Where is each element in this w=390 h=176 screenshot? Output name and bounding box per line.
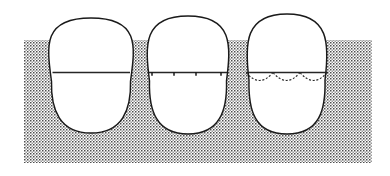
egg-group-3 [246, 14, 328, 134]
egg-plain-outline [49, 18, 134, 133]
egg-group-2 [147, 16, 229, 134]
egg-diagram [0, 0, 390, 176]
egg-group-1 [49, 18, 134, 133]
egg-ticked-outline [147, 16, 229, 134]
figure-root [0, 0, 390, 176]
eggs-layer [49, 14, 328, 134]
egg-scalloped-outline [247, 14, 327, 134]
